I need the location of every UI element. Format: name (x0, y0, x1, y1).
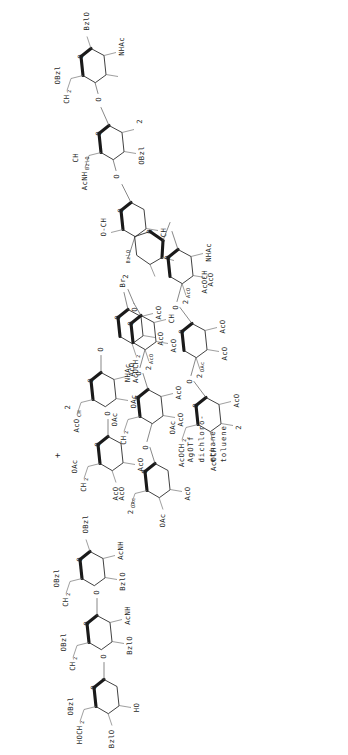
acceptor-label-bzlo-3: BzlO (118, 572, 127, 591)
acceptor-label-acnh-2: AcNH (116, 541, 125, 560)
product-glyco-o-u1: O (134, 371, 143, 376)
donor-label-oac-2: 2 (63, 404, 72, 409)
product-label-acoch2-l2-sub: OAc (199, 361, 205, 371)
ring-oxygen-label: O (191, 403, 200, 408)
ring-oxygen-label: O (75, 557, 84, 562)
reaction-scheme-canvas: O BzlO HOCH 2 OBzl HO O O CH 2 OBzl BzlO… (0, 0, 348, 755)
product-label-aco-l6: 2 (234, 425, 243, 430)
ring-oxygen-label: O (116, 208, 125, 213)
product-label-obzl-term: BzlO (82, 11, 91, 30)
product-glyco-o-bzl-1: O (94, 97, 103, 102)
product-ring-ac-l3: O 2 OAc AcO AcO AcOCH (177, 270, 229, 378)
product-ring-branchpoint: O O-CH CH (99, 184, 168, 237)
plus-sign: + (52, 452, 62, 458)
reaction-conditions: AgOTf dichloro- ethane toluene (186, 414, 228, 462)
product-label-ch2-u2-sub: 2 (123, 430, 129, 433)
ring-oxygen-label: O (82, 621, 91, 626)
product-label-nhac-1: NHAc (117, 37, 126, 56)
product-label-aco-u3: AcO (176, 412, 185, 426)
ring-oxygen-label: O (89, 685, 98, 690)
acceptor-label-obzl-4: OBzl (81, 514, 90, 533)
acceptor-ring-2: O CH 2 OBzl BzlO AcNH O (59, 590, 134, 671)
acceptor-label-hoch2: HOCH (75, 725, 84, 744)
product-label-ch2-bzl-2-sub: BzlO (84, 156, 90, 170)
donor-label-oac-1: OAc (70, 459, 79, 473)
acceptor-label-obzl-3: OBzl (52, 568, 61, 587)
product-label-ch2-u3: 2 (126, 509, 135, 514)
donor-label-ch2-2-sub: CH (76, 410, 82, 417)
donor-label-acoch2-sub: 2 (135, 354, 141, 357)
product-label-oac-u2: OAc (110, 412, 119, 426)
ring-oxygen-label: O (177, 329, 186, 334)
product-label-aco-l3: AcO (220, 346, 229, 360)
acceptor-label-bzlo-1: BzlO (107, 729, 116, 748)
ring-oxygen-label: O (163, 255, 172, 260)
acceptor-ring-3: O CH 2 OBzl BzlO AcNH OBzl (52, 514, 127, 606)
ring-oxygen-label: O (126, 321, 135, 326)
acceptor-label-bzlo-2: BzlO (125, 636, 134, 655)
product-label-oac-u3: AcO (117, 486, 126, 500)
reagent-line-4: toluene (219, 425, 228, 462)
donor-label-ch2-2: AcO (72, 418, 81, 432)
ring-oxygen-label: O (133, 395, 142, 400)
donor-label-ch2-1: CH (79, 482, 88, 491)
product-label-ch2-u2: CH (119, 435, 128, 444)
product-label-ch2-bzl-1: CH (62, 94, 71, 103)
product-ring-ac-u1: O 2 AcO AcO CH NHAc (123, 303, 178, 382)
acceptor-label-ch2-3-sub: 2 (65, 592, 71, 595)
product-label-aco-l4: AcO (218, 319, 227, 333)
product-branch-och2-sub: BzlO (125, 249, 131, 263)
product-label-aco-l7: AcO (232, 393, 241, 407)
product-glyco-o-l2: O (185, 379, 194, 384)
product-label-nhac-u: NHAc (123, 363, 132, 382)
product-glyco-o-branch: O (130, 307, 139, 312)
acceptor-label-ch2-3: CH (61, 597, 70, 606)
acceptor-label-obzl-2: OBzl (59, 632, 68, 651)
product-label-aco-l5: AcOCH (209, 447, 218, 470)
ring-oxygen-label: O (93, 442, 102, 447)
product-branch-och2-label: 2 (121, 274, 130, 279)
product-label-acoch2-u1-sub: AcO (148, 353, 154, 363)
donor-ring-2: O AcO CH 2 OAc AcO O (63, 347, 138, 432)
donor-ring-1: O AcO CH 2 OAc AcO O (70, 411, 145, 500)
donor-glycosidic-o-2: O (96, 347, 105, 352)
acceptor-ring-1: O BzlO HOCH 2 OBzl HO O (66, 654, 141, 748)
product-label-aco-u4: AcO (174, 385, 183, 399)
reaction-scheme-svg: O BzlO HOCH 2 OBzl HO O O CH 2 OBzl BzlO… (0, 0, 348, 755)
product-glyco-o-bzl-2: O (112, 174, 121, 179)
acceptor-label-hoch2-sub: 2 (79, 720, 85, 723)
product-label-acoch2-l1-sub: AcO (185, 287, 191, 297)
ring-oxygen-label: O (145, 229, 154, 234)
ring-oxygen-label: O (76, 54, 85, 59)
acceptor-trisaccharide: O BzlO HOCH 2 OBzl HO O O CH 2 OBzl BzlO… (52, 514, 141, 747)
acceptor-glycosidic-o-1: O (99, 654, 108, 659)
product-label-ch2-bzl-1-sub: 2 (66, 89, 72, 92)
ring-oxygen-label: O (86, 378, 95, 383)
product-label-ch2-l4-sub: 2 (181, 438, 187, 441)
product-ring-bzl-2: O AcNH BzlO CH OBzl 2 (71, 107, 146, 190)
product-label-acnh-1: 2 (135, 119, 144, 124)
acceptor-glycosidic-o-2: O (92, 590, 101, 595)
product-label-aco-u1: AcO (169, 338, 178, 352)
ring-oxygen-label: O (113, 315, 122, 320)
product-branched-oligosaccharide: O CH 2 OBzl NHAc BzlO O O AcNH (53, 11, 243, 527)
product-label-aco-u2: CH (167, 313, 176, 322)
product-ring-bzl-1: O CH 2 OBzl NHAc BzlO (53, 11, 126, 103)
product-label-aco-u6: AcO (183, 486, 192, 500)
ring-oxygen-label: O (140, 469, 149, 474)
product-label-ch2-l4: AcOCH (177, 443, 186, 466)
donor-ring-3-bromide: O AcOCH 2 AcO AcO Br (113, 277, 165, 382)
product-label-ch2-u3-sub: OAc (130, 497, 136, 507)
product-label-acoch2-l2: 2 (195, 373, 204, 378)
product-label-bzlo-1: OBzl (137, 146, 146, 165)
product-label-oac-l4: OAc (168, 420, 177, 434)
product-label-obzl-2: CH (71, 153, 80, 162)
acceptor-label-ch2-2: CH (68, 661, 77, 670)
product-label-aco-l2: NHAc (204, 243, 213, 262)
product-label-aco-u5: OAc (158, 513, 167, 527)
donor-label-aco-5: AcO (154, 305, 163, 319)
product-label-acoch2-u1: 2 (144, 365, 153, 370)
acceptor-label-acnh-1: AcNH (123, 606, 132, 625)
product-label-ch2-bzl-2: AcNH (80, 171, 89, 190)
donor-label-ch2-1-sub: 2 (83, 477, 89, 480)
